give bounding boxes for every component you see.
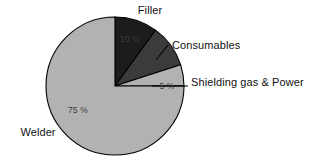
slice-label-welder: Welder: [20, 126, 55, 138]
slice-percent-shielding-gas-power: 5 %: [159, 81, 174, 91]
slice-percent-welder: 75 %: [68, 105, 88, 115]
slice-label-shielding-gas-power: Shielding gas & Power: [191, 76, 304, 88]
slice-label-consumables: Consumables: [172, 39, 241, 51]
slice-percent-consumables: 10 %: [150, 54, 170, 64]
pie-chart-canvas: 10 %10 %5 %75 % FillerConsumablesShieldi…: [0, 0, 309, 167]
slice-label-filler: Filler: [138, 4, 163, 16]
pie-chart-figure: 10 %10 %5 %75 % FillerConsumablesShieldi…: [0, 0, 309, 167]
slice-percent-filler: 10 %: [120, 34, 140, 44]
